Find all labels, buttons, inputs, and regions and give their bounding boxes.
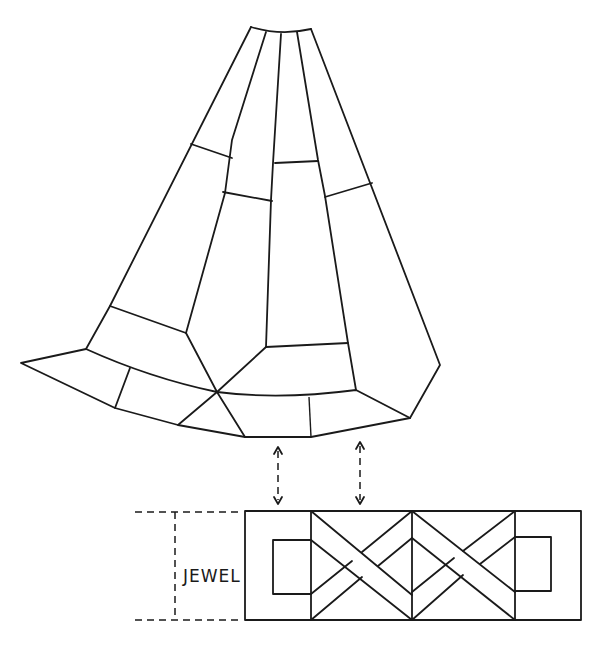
jewel-panel	[245, 511, 581, 620]
cone-lower-band	[86, 333, 410, 437]
cone-drawing	[0, 0, 609, 649]
jewel-label: JEWEL	[183, 566, 241, 586]
cone-pleats	[186, 32, 356, 390]
dashed-arrow-right	[356, 442, 364, 504]
dashed-arrow-left	[274, 447, 282, 504]
cone-outline	[21, 27, 440, 437]
